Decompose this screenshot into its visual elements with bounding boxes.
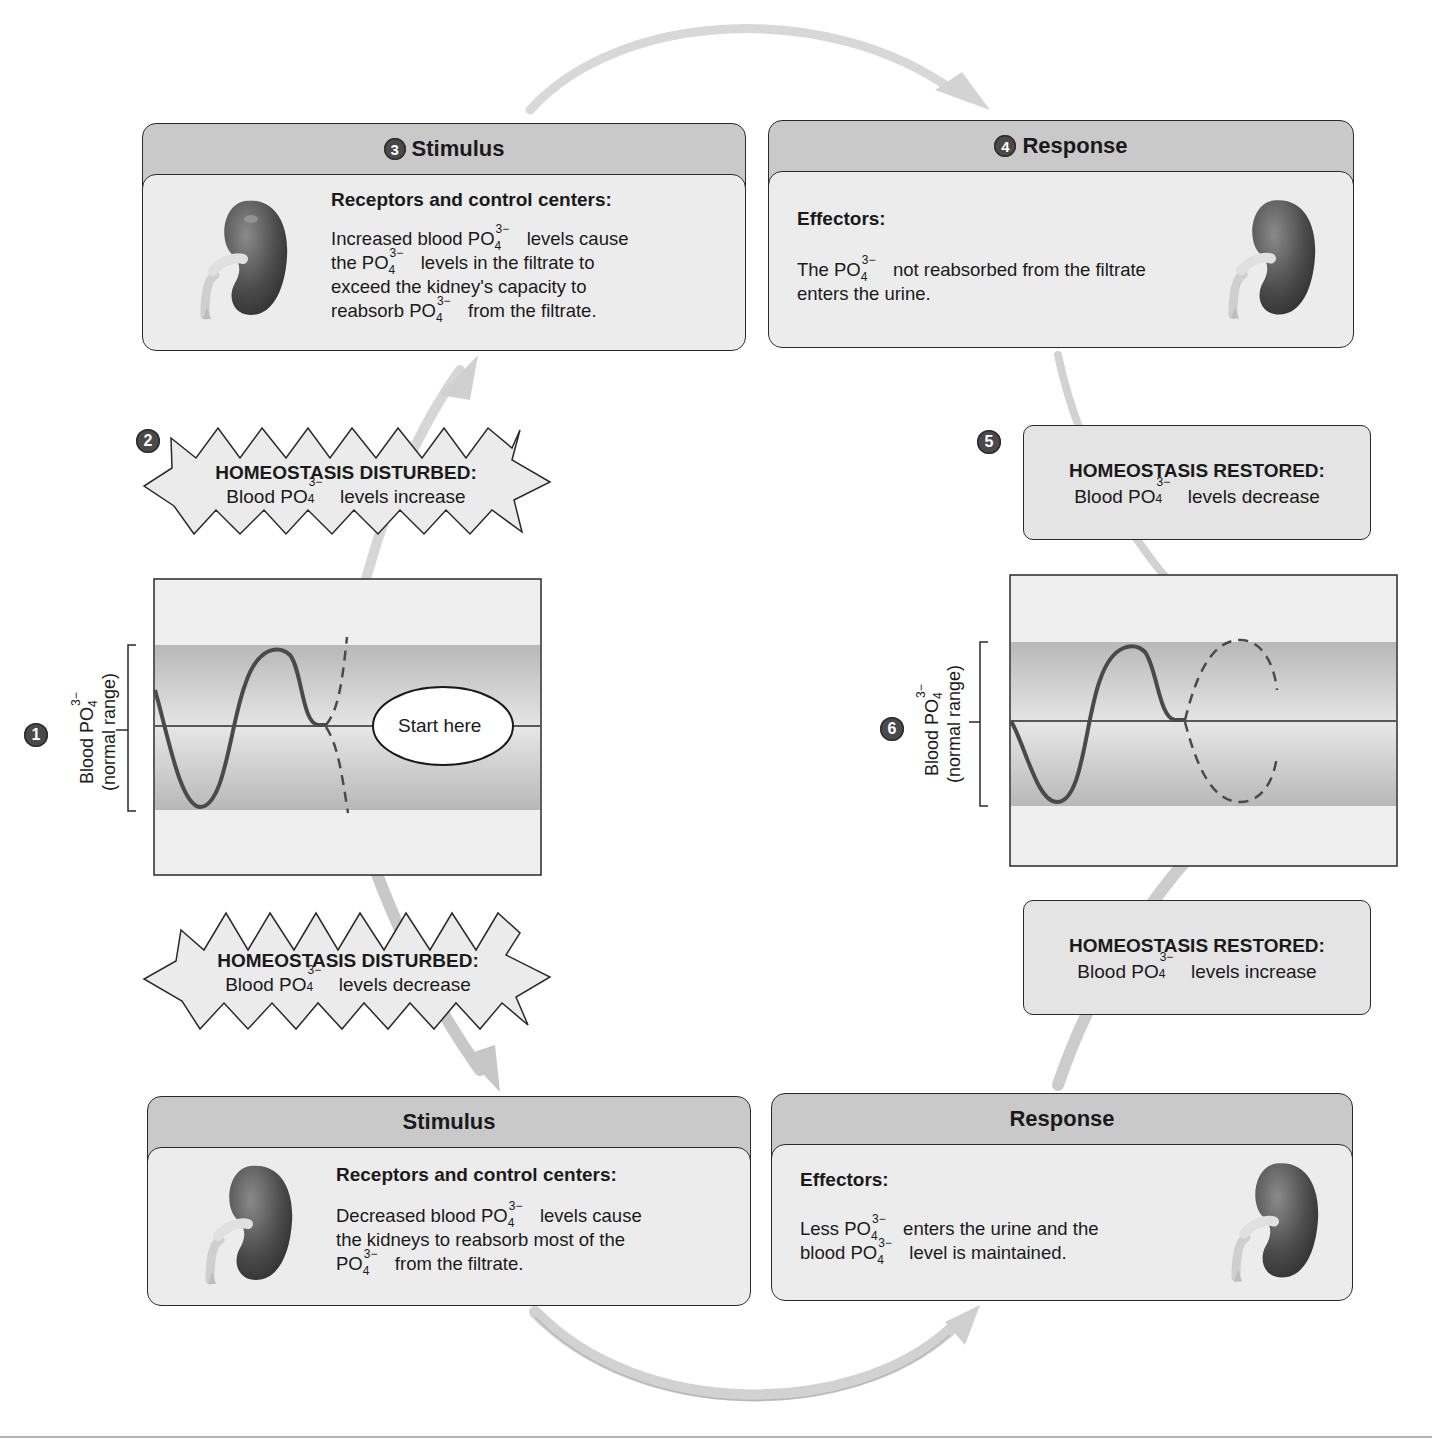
response-card-decrease: Response Effectors: Less PO3−4 enters th… bbox=[771, 1093, 1353, 1301]
graph-ylabel: Blood PO3−4 (normal range) bbox=[921, 614, 969, 834]
card-body: Receptors and control centers: Decreased… bbox=[147, 1147, 751, 1306]
kidney-icon bbox=[193, 197, 303, 322]
card-body: Effectors: The PO3−4 not reabsorbed from… bbox=[768, 171, 1354, 348]
graph-restoration-right bbox=[965, 570, 1405, 875]
card-subtitle: Receptors and control centers: bbox=[336, 1164, 617, 1186]
kidney-icon bbox=[198, 1162, 308, 1287]
arrow-stimulus-to-response-top bbox=[530, 29, 990, 110]
card-title: Response bbox=[1022, 133, 1127, 159]
card-description: Increased blood PO3−4 levels cause the P… bbox=[331, 227, 628, 323]
step-badge-4: 4 bbox=[994, 135, 1016, 157]
step-badge-5: 5 bbox=[977, 430, 1001, 454]
card-description: The PO3−4 not reabsorbed from the filtra… bbox=[797, 258, 1146, 306]
start-here-label: Start here bbox=[398, 715, 481, 737]
card-description: Less PO3−4 enters the urine and the bloo… bbox=[800, 1217, 1099, 1265]
graph-disturbance-left bbox=[110, 575, 550, 880]
restored-box-decrease: HOMEOSTASIS RESTORED: Blood PO3−4 levels… bbox=[1023, 425, 1371, 540]
card-title: Stimulus bbox=[403, 1109, 496, 1135]
card-header: Response bbox=[772, 1094, 1352, 1144]
restored-box-increase: HOMEOSTASIS RESTORED: Blood PO3−4 levels… bbox=[1023, 900, 1371, 1015]
stimulus-card-increase: 3 Stimulus Receptors and control centers… bbox=[142, 123, 746, 351]
arrow-stimulus-to-response-bottom bbox=[535, 1305, 980, 1400]
burst-text-decrease: HOMEOSTASIS DISTURBED: Blood PO3−4 level… bbox=[178, 950, 518, 996]
card-body: Effectors: Less PO3−4 enters the urine a… bbox=[771, 1144, 1353, 1301]
card-header: 3 Stimulus bbox=[143, 124, 745, 174]
step-badge-6: 6 bbox=[880, 717, 904, 741]
step-badge-1: 1 bbox=[24, 723, 48, 747]
kidney-icon bbox=[1224, 1157, 1334, 1287]
step-badge-3: 3 bbox=[384, 138, 406, 160]
kidney-icon bbox=[1221, 194, 1331, 324]
stimulus-card-decrease: Stimulus Receptors and control centers: … bbox=[147, 1096, 751, 1306]
card-subtitle: Effectors: bbox=[800, 1169, 889, 1191]
card-subtitle: Receptors and control centers: bbox=[331, 189, 612, 211]
card-subtitle: Effectors: bbox=[797, 208, 886, 230]
burst-text-increase: HOMEOSTASIS DISTURBED: Blood PO3−4 level… bbox=[176, 462, 516, 508]
card-header: 4 Response bbox=[769, 121, 1353, 171]
card-title: Response bbox=[1009, 1106, 1114, 1132]
card-title: Stimulus bbox=[412, 136, 505, 162]
response-card-increase: 4 Response Effectors: The PO3−4 not reab… bbox=[768, 120, 1354, 348]
card-body: Receptors and control centers: Increased… bbox=[142, 174, 746, 351]
card-description: Decreased blood PO3−4 levels cause the k… bbox=[336, 1204, 642, 1276]
card-header: Stimulus bbox=[148, 1097, 750, 1147]
